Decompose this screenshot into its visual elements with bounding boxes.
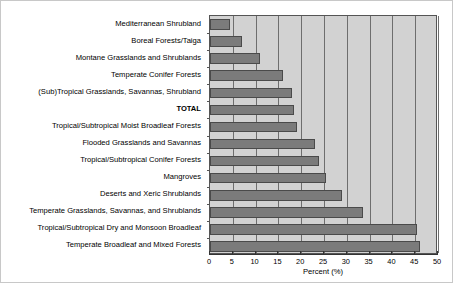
bar — [210, 139, 315, 150]
bar-row — [210, 156, 436, 167]
x-tick — [232, 251, 233, 255]
x-tick-label: 35 — [364, 257, 372, 266]
bar-row — [210, 173, 436, 184]
category-tick — [207, 170, 210, 171]
category-label: Tropical/Subtropical Conifer Forests — [1, 155, 205, 164]
bar-row — [210, 122, 436, 133]
category-label: Temperate Conifer Forests — [1, 70, 205, 79]
x-tick-label: 20 — [296, 257, 304, 266]
category-tick — [207, 238, 210, 239]
x-tick-label: 25 — [319, 257, 327, 266]
x-tick-label: 5 — [230, 257, 234, 266]
bar — [210, 105, 294, 116]
bar-row — [210, 105, 436, 116]
category-label: Tropical/Subtropical Moist Broadleaf For… — [1, 121, 205, 130]
bar — [210, 36, 242, 47]
bar — [210, 122, 297, 133]
bar-row — [210, 70, 436, 81]
x-tick — [369, 251, 370, 255]
gridline — [438, 16, 439, 253]
category-label: Boreal Forests/Taiga — [1, 36, 205, 45]
category-label: Flooded Grasslands and Savannas — [1, 138, 205, 147]
x-tick — [277, 251, 278, 255]
bar — [210, 173, 326, 184]
bar-row — [210, 139, 436, 150]
bar — [210, 19, 230, 30]
category-tick — [207, 84, 210, 85]
plot-area — [209, 15, 437, 254]
x-tick — [391, 251, 392, 255]
x-tick — [300, 251, 301, 255]
category-tick — [207, 101, 210, 102]
x-tick — [323, 251, 324, 255]
category-label: Temperate Broadleaf and Mixed Forests — [1, 240, 205, 249]
category-label: (Sub)Tropical Grasslands, Savannas, Shru… — [1, 87, 205, 96]
x-tick — [209, 251, 210, 255]
chart-figure: Mediterranean ShrublandBoreal Forests/Ta… — [0, 0, 453, 283]
x-tick-label: 30 — [342, 257, 350, 266]
category-tick — [207, 118, 210, 119]
x-tick-label: 0 — [207, 257, 211, 266]
x-tick-label: 15 — [273, 257, 281, 266]
bar-row — [210, 190, 436, 201]
category-label: Mangroves — [1, 172, 205, 181]
x-tick — [414, 251, 415, 255]
category-label: Mediterranean Shrubland — [1, 19, 205, 28]
x-tick-label: 45 — [410, 257, 418, 266]
bar — [210, 70, 283, 81]
x-tick — [437, 251, 438, 255]
bar-series — [210, 16, 436, 253]
bar — [210, 156, 319, 167]
bar-row — [210, 88, 436, 99]
x-tick-label: 50 — [433, 257, 441, 266]
category-label: Tropical/Subtropical Dry and Monsoon Bro… — [1, 223, 205, 232]
category-label: Temperate Grasslands, Savannas, and Shru… — [1, 206, 205, 215]
bar-row — [210, 224, 436, 235]
category-tick — [207, 187, 210, 188]
bar — [210, 53, 260, 64]
bar — [210, 241, 420, 252]
bar-row — [210, 19, 436, 30]
category-tick — [207, 221, 210, 222]
category-tick — [207, 67, 210, 68]
category-tick — [207, 204, 210, 205]
bar — [210, 224, 417, 235]
x-tick-label: 10 — [250, 257, 258, 266]
category-label: TOTAL — [1, 104, 205, 113]
category-label: Deserts and Xeric Shrublands — [1, 189, 205, 198]
bar-row — [210, 36, 436, 47]
x-tick — [346, 251, 347, 255]
category-tick — [207, 33, 210, 34]
category-tick — [207, 136, 210, 137]
bar — [210, 88, 292, 99]
x-axis-title: Percent (%) — [209, 267, 437, 276]
x-tick — [255, 251, 256, 255]
bar — [210, 190, 342, 201]
bar-row — [210, 207, 436, 218]
category-tick — [207, 50, 210, 51]
bar-row — [210, 53, 436, 64]
x-axis: Percent (%) 05101520253035404550 — [209, 254, 437, 283]
bar — [210, 207, 363, 218]
category-tick — [207, 153, 210, 154]
category-axis-labels: Mediterranean ShrublandBoreal Forests/Ta… — [1, 15, 205, 254]
category-label: Montane Grasslands and Shrublands — [1, 53, 205, 62]
x-tick-label: 40 — [387, 257, 395, 266]
